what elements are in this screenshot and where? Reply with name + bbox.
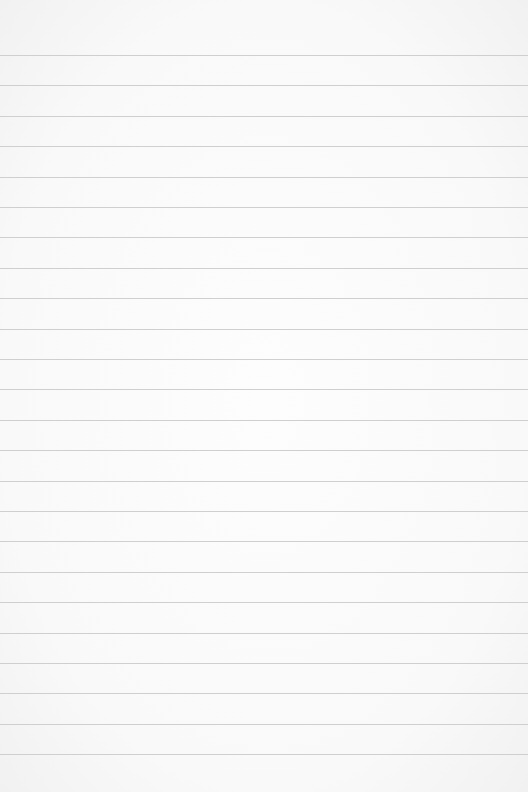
ruled-line	[0, 541, 528, 542]
ruled-line	[0, 359, 528, 360]
ruled-line	[0, 481, 528, 482]
ruled-line	[0, 663, 528, 664]
ruled-line	[0, 572, 528, 573]
ruled-line	[0, 724, 528, 725]
ruled-line	[0, 298, 528, 299]
ruled-line	[0, 177, 528, 178]
ruled-line	[0, 237, 528, 238]
ruled-line	[0, 693, 528, 694]
lined-paper	[0, 0, 528, 792]
ruled-line	[0, 85, 528, 86]
ruled-line	[0, 329, 528, 330]
ruled-line	[0, 450, 528, 451]
ruled-line	[0, 146, 528, 147]
ruled-line	[0, 116, 528, 117]
ruled-line	[0, 207, 528, 208]
ruled-line	[0, 602, 528, 603]
ruled-line	[0, 511, 528, 512]
ruled-line	[0, 268, 528, 269]
ruled-line	[0, 754, 528, 755]
ruled-line	[0, 55, 528, 56]
ruled-line	[0, 420, 528, 421]
ruled-line	[0, 389, 528, 390]
ruled-line	[0, 633, 528, 634]
